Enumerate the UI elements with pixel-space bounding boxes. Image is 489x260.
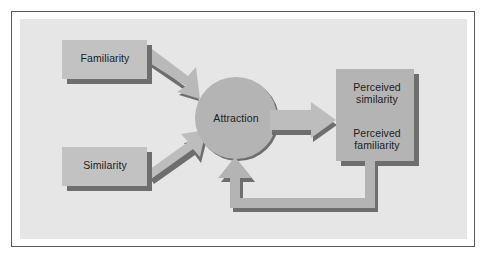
node-familiarity-box	[62, 40, 152, 84]
figure-root: Familiarity Similarity Attraction Percei…	[0, 0, 489, 260]
arrow-familiarity-to-attraction	[145, 46, 200, 101]
node-perceived-box	[336, 69, 419, 166]
node-similarity-box	[62, 147, 152, 191]
arrow-attraction-to-perceived	[270, 102, 337, 142]
diagram-canvas	[0, 0, 489, 260]
node-attraction-circle	[195, 77, 279, 161]
arrow-similarity-to-attraction	[146, 130, 207, 184]
